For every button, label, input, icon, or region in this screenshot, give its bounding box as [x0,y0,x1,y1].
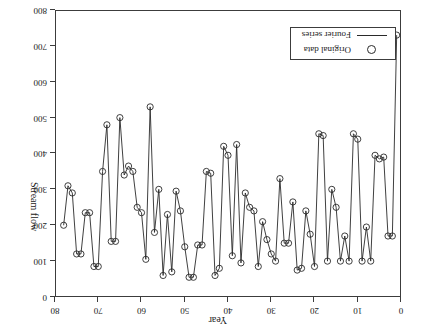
x-tick-label: 40 [219,306,237,315]
y-tick-mark [50,224,55,225]
y-tick-label: 400 [34,150,48,159]
y-tick-mark [50,117,55,118]
legend: Original data Fourier series [290,27,396,60]
x-tick-label: 30 [262,306,280,315]
plot-wrapper: 01020304050607080 0100200300400500600700… [0,0,423,332]
y-axis-title: Stream flow [29,182,40,231]
x-tick-mark [357,297,358,302]
y-tick-label: 800 [34,6,48,15]
x-tick-mark [184,297,185,302]
x-tick-label: 50 [176,306,194,315]
x-tick-label: 10 [349,306,367,315]
x-tick-mark [97,297,98,302]
x-tick-mark [54,297,55,302]
x-axis-title: Year [209,315,227,326]
x-tick-label: 60 [133,306,151,315]
y-tick-mark [50,9,55,10]
y-tick-label: 0 [43,293,48,302]
x-tick-mark [227,297,228,302]
y-tick-mark [50,81,55,82]
legend-entry-original-data: Original data [289,42,395,58]
y-tick-label: 600 [34,78,48,87]
y-tick-label: 700 [34,42,48,51]
x-tick-mark [270,297,271,302]
x-tick-label: 20 [306,306,324,315]
solid-line-icon [355,27,389,43]
legend-label-original-data: Original data [304,45,351,55]
circle-marker-icon [355,42,389,58]
x-tick-mark [400,297,401,302]
x-tick-label: 0 [392,306,410,315]
y-tick-mark [50,45,55,46]
legend-entry-fourier-series: Fourier series [289,27,395,43]
y-tick-mark [50,188,55,189]
stream-flow-figure: 01020304050607080 0100200300400500600700… [0,0,423,332]
y-tick-mark [50,260,55,261]
y-tick-label: 500 [34,114,48,123]
y-tick-mark [50,296,55,297]
x-tick-mark [314,297,315,302]
x-tick-mark [141,297,142,302]
fourier-series-line [64,35,397,277]
legend-label-fourier-series: Fourier series [302,30,351,40]
x-tick-label: 80 [46,306,64,315]
y-tick-label: 100 [34,257,48,266]
x-tick-label: 70 [89,306,107,315]
y-tick-mark [50,153,55,154]
